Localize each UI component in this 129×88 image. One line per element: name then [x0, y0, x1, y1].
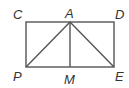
point-label-e: E — [115, 70, 124, 83]
geometry-diagram: C A D P M E — [0, 0, 129, 88]
segment-ap — [26, 22, 70, 67]
point-label-d: D — [115, 8, 124, 21]
segment-ae — [70, 22, 114, 67]
point-label-a: A — [65, 7, 74, 20]
point-label-p: P — [13, 70, 22, 83]
point-label-m: M — [64, 73, 75, 86]
point-label-c: C — [13, 8, 22, 21]
